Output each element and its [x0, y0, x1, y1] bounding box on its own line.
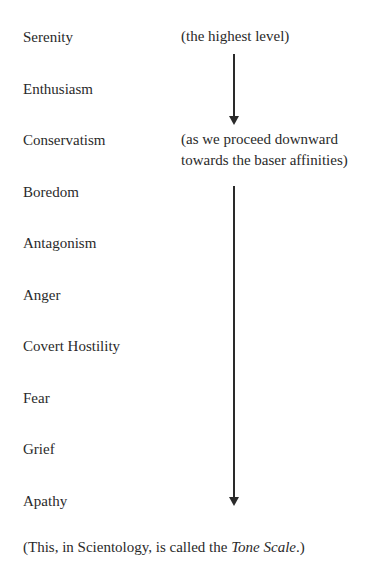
- downward-note-line2: towards the baser affinities): [181, 150, 348, 171]
- level-covert-hostility: Covert Hostility: [23, 337, 120, 355]
- down-arrow-icon: [233, 186, 235, 499]
- level-conservatism: Conservatism: [23, 131, 106, 149]
- highest-level-note: (the highest level): [181, 26, 289, 47]
- caption-term: Tone Scale: [231, 539, 296, 555]
- level-anger: Anger: [23, 286, 61, 304]
- level-antagonism: Antagonism: [23, 234, 96, 252]
- level-serenity: Serenity: [23, 28, 73, 46]
- level-apathy: Apathy: [23, 492, 67, 510]
- level-enthusiasm: Enthusiasm: [23, 80, 93, 98]
- caption-prefix: (This, in Scientology, is called the: [23, 539, 231, 555]
- arrowhead-icon: [229, 116, 239, 125]
- level-boredom: Boredom: [23, 183, 79, 201]
- down-arrow-icon: [233, 54, 235, 118]
- level-grief: Grief: [23, 440, 55, 458]
- downward-note-line1: (as we proceed downward: [181, 129, 338, 150]
- arrowhead-icon: [229, 497, 239, 506]
- level-fear: Fear: [23, 389, 50, 407]
- caption: (This, in Scientology, is called the Ton…: [23, 538, 305, 556]
- caption-suffix: .): [296, 539, 305, 555]
